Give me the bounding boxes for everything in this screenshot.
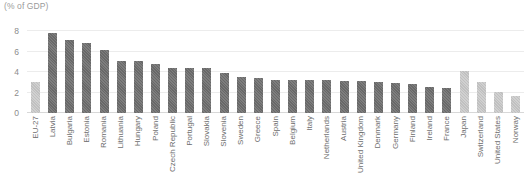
bar[interactable] <box>494 92 503 113</box>
x-tick-label: Estonia <box>83 116 91 143</box>
x-tick-slot: France <box>438 116 455 190</box>
bar-slot <box>404 25 421 113</box>
bar[interactable] <box>357 81 366 113</box>
x-tick-label: Finland <box>409 116 417 142</box>
x-tick-label: Denmark <box>374 116 382 148</box>
x-tick-label: Austria <box>340 116 348 141</box>
x-tick-label: Slovakia <box>203 116 211 146</box>
bar-slot <box>61 25 78 113</box>
bar-slot <box>27 25 44 113</box>
x-tick-label: Latvia <box>49 116 57 137</box>
bar[interactable] <box>442 88 451 113</box>
x-tick-label: Italy <box>306 116 314 131</box>
x-tick-label: United Kingdom <box>357 116 365 173</box>
bar[interactable] <box>82 43 91 113</box>
y-tick-label-2: 2 <box>14 88 19 98</box>
bar-slot <box>353 25 370 113</box>
x-tick-label: Switzerland <box>477 116 485 157</box>
bar[interactable] <box>31 82 40 113</box>
bar[interactable] <box>374 82 383 113</box>
x-tick-label: Belgium <box>289 116 297 145</box>
x-tick-slot: Finland <box>404 116 421 190</box>
bar-slot <box>456 25 473 113</box>
x-tick-label: Portugal <box>186 116 194 146</box>
x-tick-label: Czech Republic <box>169 116 177 172</box>
bar-slot <box>267 25 284 113</box>
bar[interactable] <box>134 61 143 113</box>
bar-slot <box>233 25 250 113</box>
x-axis-tick-labels: EU-27LatviaBulgariaEstoniaRomaniaLithuan… <box>27 116 524 190</box>
bar[interactable] <box>288 80 297 113</box>
bar-slot <box>44 25 61 113</box>
bar[interactable] <box>408 84 417 113</box>
bar[interactable] <box>117 61 126 113</box>
bar[interactable] <box>271 80 280 113</box>
bar[interactable] <box>425 87 434 113</box>
x-tick-slot: Slovakia <box>198 116 215 190</box>
bar[interactable] <box>305 80 314 113</box>
bar[interactable] <box>48 33 57 113</box>
bar[interactable] <box>168 68 177 113</box>
x-tick-slot: EU-27 <box>27 116 44 190</box>
x-tick-slot: Norway <box>507 116 524 190</box>
bar[interactable] <box>220 73 229 113</box>
bar[interactable] <box>477 82 486 113</box>
bar-slot <box>198 25 215 113</box>
bar[interactable] <box>65 40 74 113</box>
x-tick-label: EU-27 <box>32 116 40 139</box>
x-tick-slot: Portugal <box>181 116 198 190</box>
bar[interactable] <box>151 64 160 113</box>
x-tick-slot: United Kingdom <box>353 116 370 190</box>
bar-slot <box>473 25 490 113</box>
x-tick-slot: Ireland <box>421 116 438 190</box>
x-tick-slot: Germany <box>387 116 404 190</box>
x-tick-slot: Czech Republic <box>164 116 181 190</box>
x-tick-label: Netherlands <box>323 116 331 159</box>
bar-slot <box>507 25 524 113</box>
x-tick-label: Spain <box>272 116 280 136</box>
x-tick-slot: Japan <box>456 116 473 190</box>
bar-slot <box>421 25 438 113</box>
x-tick-slot: Austria <box>336 116 353 190</box>
bar[interactable] <box>254 78 263 113</box>
x-tick-slot: Slovenia <box>216 116 233 190</box>
x-tick-label: France <box>443 116 451 141</box>
x-tick-slot: Denmark <box>370 116 387 190</box>
x-tick-slot: Spain <box>267 116 284 190</box>
x-tick-label: Lithuania <box>117 116 125 148</box>
y-axis-tick-labels: 02468 <box>0 25 24 113</box>
x-tick-label: United States <box>494 116 502 164</box>
x-tick-slot: Belgium <box>284 116 301 190</box>
bar-series <box>27 25 524 113</box>
bar[interactable] <box>340 81 349 113</box>
y-tick-label-6: 6 <box>14 47 19 57</box>
bar-slot <box>113 25 130 113</box>
bar[interactable] <box>237 77 246 113</box>
bar-slot <box>318 25 335 113</box>
y-tick-label-0: 0 <box>14 108 19 118</box>
bar-slot <box>216 25 233 113</box>
x-tick-slot: Lithuania <box>113 116 130 190</box>
x-tick-slot: Italy <box>301 116 318 190</box>
bar[interactable] <box>185 68 194 113</box>
x-tick-slot: Poland <box>147 116 164 190</box>
bar[interactable] <box>460 71 469 113</box>
bar[interactable] <box>100 50 109 113</box>
bar[interactable] <box>202 68 211 113</box>
bar[interactable] <box>391 83 400 113</box>
bar[interactable] <box>511 96 520 113</box>
bar-slot <box>490 25 507 113</box>
x-tick-label: Bulgaria <box>66 116 74 145</box>
bar[interactable] <box>322 80 331 113</box>
x-tick-label: Ireland <box>426 116 434 140</box>
bar-slot <box>78 25 95 113</box>
x-tick-slot: Romania <box>96 116 113 190</box>
bar-slot <box>147 25 164 113</box>
bar-slot <box>130 25 147 113</box>
x-tick-slot: Bulgaria <box>61 116 78 190</box>
x-tick-label: Greece <box>254 116 262 142</box>
x-tick-slot: Hungary <box>130 116 147 190</box>
bar-slot <box>301 25 318 113</box>
y-tick-label-4: 4 <box>14 67 19 77</box>
bar-slot <box>181 25 198 113</box>
